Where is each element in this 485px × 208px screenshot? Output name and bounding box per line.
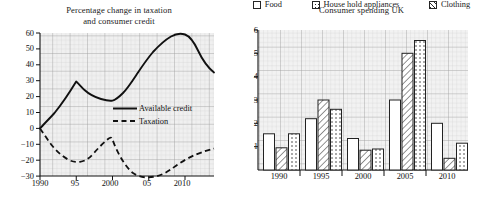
bar-2005-clothing[interactable] — [402, 53, 413, 170]
right-y-ticks — [254, 30, 258, 147]
bar-1990-clothing[interactable] — [276, 148, 287, 170]
bar-2000-household-appliances[interactable] — [373, 149, 384, 170]
bar-2005-household-appliances[interactable] — [415, 41, 426, 171]
figure-container: Percentage change in taxation and consum… — [0, 0, 485, 208]
bar-2010-clothing[interactable] — [444, 158, 455, 170]
bar-2010-food[interactable] — [432, 123, 443, 170]
left-x-ticks — [40, 176, 185, 180]
legend-label-taxation: Taxation — [139, 117, 168, 126]
bar-1990-food[interactable] — [264, 134, 275, 170]
bar-2010-household-appliances[interactable] — [457, 143, 468, 170]
bar-1990-household-appliances[interactable] — [289, 134, 300, 170]
bar-2005-food[interactable] — [390, 100, 401, 170]
left-y-ticks — [36, 33, 40, 176]
bar-1995-food[interactable] — [306, 119, 317, 170]
bar-2000-clothing[interactable] — [360, 150, 371, 170]
bar-2000-food[interactable] — [348, 139, 359, 171]
bar-chart-consumer-spending: Consumer spending UK 6 5 4 3 2 1 1990 19… — [238, 0, 485, 208]
right-chart-canvas — [238, 0, 485, 208]
line-chart-taxation-credit: Percentage change in taxation and consum… — [0, 0, 238, 208]
bar-1995-household-appliances[interactable] — [331, 109, 342, 170]
right-group-separators — [300, 170, 426, 176]
left-chart-canvas — [0, 0, 238, 208]
bar-1995-clothing[interactable] — [318, 100, 329, 170]
legend-label-available-credit: Available credit — [139, 104, 192, 113]
